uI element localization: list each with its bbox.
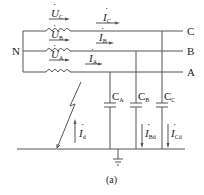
- current-ib: IB: [99, 32, 107, 44]
- current-icd: ICd: [171, 128, 182, 140]
- fault-lightning-icon: [57, 82, 81, 148]
- capacitor-a-icon: [104, 103, 116, 107]
- neutral-label: N: [12, 46, 20, 57]
- capacitor-label-b: CB: [138, 91, 149, 103]
- current-id: Id: [79, 128, 86, 140]
- voltage-ua: UA: [51, 49, 63, 61]
- figure-caption: (a): [106, 175, 117, 185]
- line-label-a: A: [187, 67, 195, 78]
- line-label-c: C: [187, 26, 194, 37]
- capacitor-b-icon: [130, 103, 142, 107]
- capacitor-label-c: CC: [164, 91, 175, 103]
- current-ibd: IBd: [145, 128, 156, 140]
- inductor-a-icon: [46, 70, 70, 73]
- current-ia: IA: [89, 53, 97, 65]
- ground-icon: [113, 149, 123, 165]
- line-label-b: B: [187, 46, 194, 57]
- capacitor-c-icon: [156, 103, 168, 107]
- capacitor-label-a: CA: [112, 91, 124, 103]
- current-ic: IC: [103, 12, 111, 24]
- voltage-uc: UC: [51, 8, 63, 20]
